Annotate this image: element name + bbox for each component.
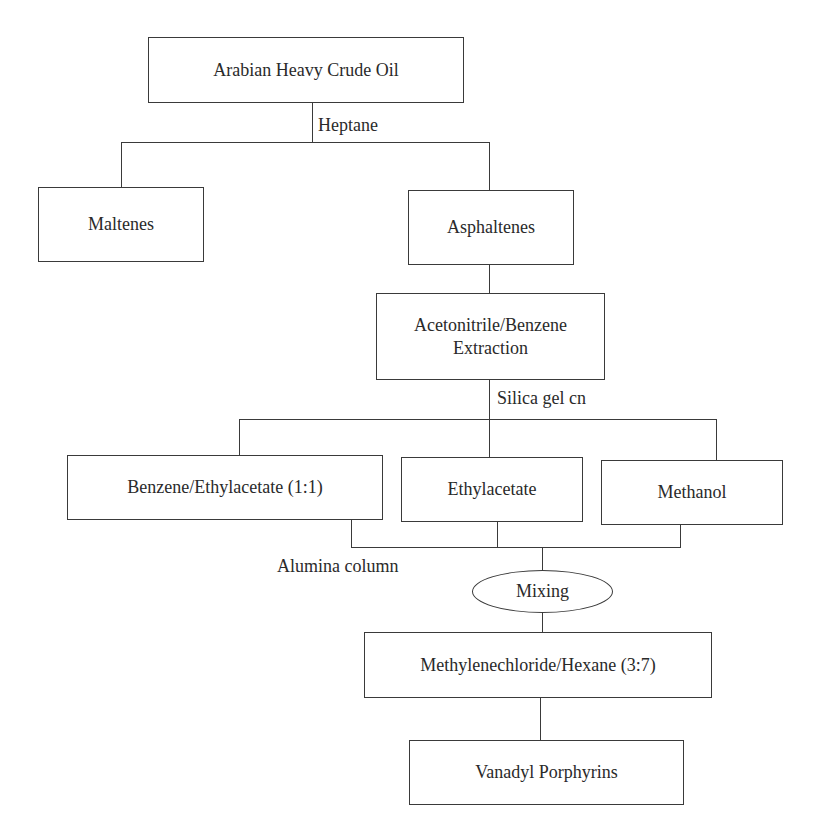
connector-mixing-to-methylene (542, 612, 543, 632)
connector-heptane-split (121, 142, 490, 143)
node-maltenes: Maltenes (38, 187, 204, 262)
connector-benzene-to-merge (351, 519, 352, 548)
connector-asphaltenes-to-extraction (489, 264, 490, 293)
node-crude-oil: Arabian Heavy Crude Oil (148, 37, 464, 103)
connector-ethylacetate-to-merge (497, 521, 498, 548)
edge-label-silica-gel: Silica gel cn (497, 388, 586, 409)
node-mixing: Mixing (472, 570, 613, 613)
connector-extraction-to-split (489, 379, 490, 457)
edge-label-alumina-column: Alumina column (277, 556, 398, 577)
node-asphaltenes-label: Asphaltenes (447, 216, 535, 239)
node-crude-oil-label: Arabian Heavy Crude Oil (213, 59, 398, 82)
node-methanol-label: Methanol (658, 481, 727, 504)
node-vanadyl-porphyrins-label: Vanadyl Porphyrins (475, 761, 618, 784)
connector-to-methanol (716, 419, 717, 460)
node-extraction-label-line1: Acetonitrile/Benzene (414, 314, 567, 337)
node-benzene-ethylacetate: Benzene/Ethylacetate (1:1) (67, 455, 383, 520)
node-methylenechloride-hexane: Methylenechloride/Hexane (3:7) (364, 632, 712, 698)
node-vanadyl-porphyrins: Vanadyl Porphyrins (409, 740, 684, 805)
node-methylenechloride-hexane-label: Methylenechloride/Hexane (3:7) (420, 654, 655, 677)
node-benzene-ethylacetate-label: Benzene/Ethylacetate (1:1) (127, 476, 322, 499)
node-ethylacetate: Ethylacetate (401, 457, 583, 522)
node-extraction-label-line2: Extraction (453, 337, 528, 360)
edge-label-heptane: Heptane (318, 115, 378, 136)
node-asphaltenes: Asphaltenes (408, 190, 574, 265)
connector-to-asphaltenes (489, 142, 490, 190)
connector-methylene-to-vanadyl (540, 697, 541, 740)
connector-crude-to-split (312, 102, 313, 143)
node-mixing-label: Mixing (516, 581, 569, 602)
node-methanol: Methanol (601, 460, 783, 525)
connector-to-maltenes (121, 142, 122, 187)
node-maltenes-label: Maltenes (88, 213, 154, 236)
connector-methanol-to-merge (680, 524, 681, 548)
connector-silica-split (239, 419, 716, 420)
connector-alumina-merge (351, 547, 680, 548)
connector-to-benzene-ethylacetate (239, 419, 240, 455)
node-ethylacetate-label: Ethylacetate (448, 478, 537, 501)
node-extraction: Acetonitrile/Benzene Extraction (376, 293, 605, 380)
connector-merge-to-mixing (542, 547, 543, 571)
